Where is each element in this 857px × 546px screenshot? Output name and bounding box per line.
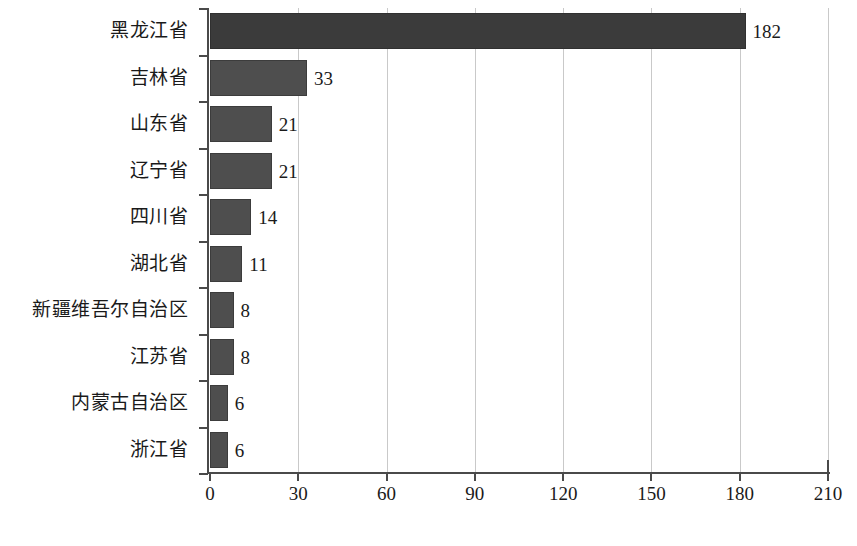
gridline-60	[387, 8, 388, 473]
category-label: 湖北省	[130, 254, 189, 273]
y-axis-tick	[199, 241, 208, 243]
y-axis-tick	[199, 101, 208, 103]
bar	[210, 199, 251, 235]
y-axis-tick	[199, 194, 208, 196]
bar-value-label: 8	[241, 301, 251, 320]
bar-value-label: 33	[314, 69, 333, 88]
x-axis-tick-mark	[386, 472, 388, 481]
x-axis-tick-mark	[827, 472, 829, 481]
category-label: 浙江省	[130, 440, 189, 459]
x-axis-tick-label: 180	[725, 484, 754, 503]
category-label: 新疆维吾尔自治区	[32, 300, 188, 319]
bar-value-label: 6	[235, 441, 245, 460]
bar-value-label: 8	[241, 348, 251, 367]
x-axis-tick-mark	[562, 472, 564, 481]
x-axis-tick-label: 30	[289, 484, 308, 503]
x-axis-tick-label: 0	[205, 484, 215, 503]
bar-value-label: 182	[753, 22, 782, 41]
x-axis-tick-label: 90	[465, 484, 484, 503]
y-axis-tick	[199, 287, 208, 289]
category-label: 黑龙江省	[110, 21, 188, 40]
gridline-90	[475, 8, 476, 473]
bar	[210, 60, 307, 96]
x-axis-tick-mark	[297, 472, 299, 481]
x-axis-tick-mark	[739, 472, 741, 481]
bar	[210, 13, 746, 49]
category-label: 江苏省	[130, 347, 189, 366]
bar-value-label: 14	[258, 208, 277, 227]
y-axis-tick	[199, 8, 208, 10]
bar-value-label: 21	[279, 115, 298, 134]
category-label: 内蒙古自治区	[71, 393, 188, 412]
x-axis-tick-label: 60	[377, 484, 396, 503]
bar-value-label: 11	[249, 255, 267, 274]
y-axis-tick	[199, 148, 208, 150]
gridline-150	[651, 8, 652, 473]
y-axis-tick	[199, 334, 208, 336]
category-label: 吉林省	[130, 68, 189, 87]
bar	[210, 432, 228, 468]
y-axis-tick	[199, 380, 208, 382]
x-axis-tick-label: 210	[814, 484, 843, 503]
x-axis-tick-mark	[650, 472, 652, 481]
gridline-120	[563, 8, 564, 473]
x-axis-tick-label: 120	[549, 484, 578, 503]
y-axis-tick	[199, 427, 208, 429]
bar	[210, 106, 272, 142]
x-axis-tick-label: 150	[637, 484, 666, 503]
bar	[210, 153, 272, 189]
category-label: 四川省	[130, 207, 189, 226]
x-axis-tick-mark	[209, 472, 211, 481]
bar	[210, 339, 234, 375]
bar-value-label: 21	[279, 162, 298, 181]
x-axis-line	[207, 472, 830, 474]
y-axis-tick	[199, 55, 208, 57]
category-label: 辽宁省	[130, 161, 189, 180]
bar-value-label: 6	[235, 394, 245, 413]
category-label: 山东省	[130, 114, 189, 133]
figure-caption	[0, 536, 857, 546]
bar	[210, 292, 234, 328]
gridline-210	[828, 8, 829, 473]
bar-chart-figure: 黑龙江省182吉林省33山东省21辽宁省21四川省14湖北省11新疆维吾尔自治区…	[0, 0, 857, 546]
y-axis-tick	[199, 473, 208, 475]
bar	[210, 385, 228, 421]
bar	[210, 246, 242, 282]
x-axis-tick-mark	[474, 472, 476, 481]
gridline-180	[740, 8, 741, 473]
